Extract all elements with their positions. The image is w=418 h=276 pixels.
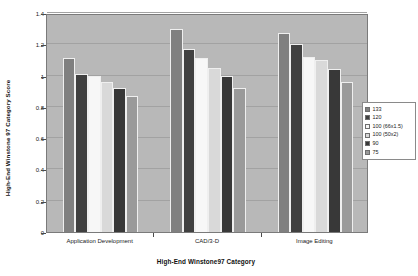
bar xyxy=(170,29,183,232)
legend-item-label: 120 xyxy=(373,115,382,120)
bar xyxy=(113,88,126,232)
bar-chart: High-End Winstone 97 Category Score 00.2… xyxy=(0,0,418,276)
legend-item[interactable]: 100 (66x1.5) xyxy=(365,122,413,131)
legend-item-label: 75 xyxy=(373,150,379,155)
x-axis-tick-mark xyxy=(153,233,154,237)
legend-item[interactable]: 100 (50x2) xyxy=(365,131,413,140)
y-axis-title: High-End Winstone 97 Category Score xyxy=(0,0,14,276)
x-axis-title: High-End Winstone97 Category xyxy=(46,258,366,265)
plot-area xyxy=(46,14,368,233)
bar xyxy=(88,76,101,232)
x-axis-tick-mark xyxy=(261,233,262,237)
x-axis-category-label: Application Development xyxy=(66,238,132,244)
bar xyxy=(278,33,291,232)
legend-swatch-icon xyxy=(365,115,370,120)
bar xyxy=(101,82,114,232)
legend-item[interactable]: 90 xyxy=(365,139,413,148)
bar-group xyxy=(154,15,261,232)
legend-item-label: 90 xyxy=(373,141,379,146)
x-axis-category-label: CAD/3-D xyxy=(195,238,219,244)
bar xyxy=(126,96,139,232)
legend-swatch-icon xyxy=(365,124,370,129)
bar xyxy=(195,58,208,232)
gridline xyxy=(47,12,367,13)
legend-item-label: 133 xyxy=(373,107,382,112)
bar xyxy=(315,60,328,232)
legend-item[interactable]: 133 xyxy=(365,105,413,114)
bars-container xyxy=(47,15,367,232)
legend-item-label: 100 (66x1.5) xyxy=(373,124,403,129)
x-axis-category-label: Image Editing xyxy=(296,238,333,244)
legend-item-label: 100 (50x2) xyxy=(373,132,399,137)
legend-swatch-icon xyxy=(365,107,370,112)
y-axis-tick-mark xyxy=(41,233,46,234)
legend-item[interactable]: 75 xyxy=(365,148,413,157)
bar xyxy=(290,44,303,232)
bar xyxy=(75,74,88,232)
bar xyxy=(221,76,234,232)
chart-legend: 133120100 (66x1.5)100 (50x2)9075 xyxy=(362,102,416,160)
legend-item[interactable]: 120 xyxy=(365,114,413,123)
bar xyxy=(233,88,246,232)
legend-swatch-icon xyxy=(365,141,370,146)
bar-group xyxy=(47,15,154,232)
bar xyxy=(208,68,221,232)
bar xyxy=(183,49,196,232)
bar-group xyxy=(262,15,369,232)
bar xyxy=(63,58,76,232)
legend-swatch-icon xyxy=(365,133,370,138)
bar xyxy=(341,82,354,232)
bar xyxy=(328,69,341,232)
bar xyxy=(303,57,316,232)
legend-swatch-icon xyxy=(365,150,370,155)
